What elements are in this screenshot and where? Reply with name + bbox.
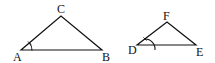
vertex-label-e: E — [196, 45, 203, 59]
vertex-label-f: F — [163, 9, 170, 23]
triangle-def: D E F — [128, 9, 203, 59]
similar-triangles-diagram: A B C D E F — [0, 0, 215, 63]
triangle-abc: A B C — [13, 2, 110, 63]
vertex-label-a: A — [13, 50, 22, 63]
vertex-label-b: B — [102, 50, 110, 63]
triangle-def-shape — [137, 22, 196, 45]
vertex-label-c: C — [57, 2, 65, 16]
vertex-label-d: D — [128, 43, 137, 57]
triangle-abc-shape — [21, 16, 102, 50]
